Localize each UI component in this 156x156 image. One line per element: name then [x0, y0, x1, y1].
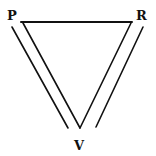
outer-left-parallel-line — [12, 27, 68, 128]
diagram-canvas: P R V — [0, 0, 156, 156]
label-v: V — [73, 138, 85, 153]
outer-right-parallel-line — [96, 27, 143, 127]
left-edge-pv — [23, 23, 80, 128]
label-r: R — [136, 8, 147, 23]
label-p: P — [7, 8, 17, 23]
right-edge-rv — [80, 23, 131, 128]
